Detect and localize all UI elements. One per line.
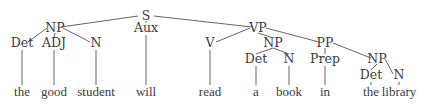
word-student: student [77,84,115,99]
node-n3: N [394,67,405,82]
node-prep: Prep [310,51,340,66]
node-n2: N [284,51,295,66]
node-det3: Det [360,67,382,82]
word-good: good [41,84,68,99]
edge-np1-n1 [63,28,90,42]
node-np2: NP [263,35,282,50]
word-book: book [276,84,303,99]
node-v: V [204,35,215,50]
word-the: the [14,84,30,99]
terminal-words: thegoodstudentwillreadabookinthelibrary [14,84,417,99]
word-the: the [363,84,379,99]
node-det1: Det [11,35,33,50]
edge-s-np1 [61,16,138,27]
node-np1: NP [45,20,64,35]
node-adj: ADJ [41,35,66,50]
node-aux: Aux [133,20,158,35]
word-read: read [199,84,222,99]
edge-s-vp [154,16,252,27]
node-n1: N [91,35,102,50]
edge-vp-v [216,28,250,42]
node-pp: PP [317,35,334,50]
word-a: a [253,84,259,99]
node-vp: VP [248,20,266,35]
word-will: will [136,84,157,99]
word-in: in [320,84,331,99]
word-library: library [382,84,417,99]
node-np3: NP [367,51,386,66]
syntax-tree-diagram: SNPAuxVPDetADJNVNPPPDetNPrepNPDetN thego… [0,0,423,106]
tree-nodes: SNPAuxVPDetADJNVNPPPDetNPrepNPDetN [11,8,405,82]
node-det2: Det [245,51,267,66]
